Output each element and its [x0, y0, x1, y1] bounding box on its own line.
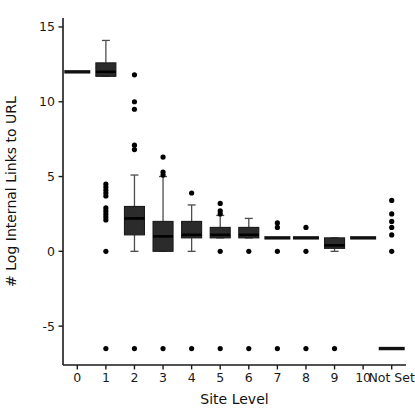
outlier-point: [132, 143, 137, 148]
x-tick-label: 4: [188, 370, 196, 385]
x-tick-label: 0: [73, 370, 81, 385]
y-tick-label: 15: [39, 19, 55, 34]
outlier-point: [189, 190, 194, 195]
outlier-point: [389, 232, 394, 237]
outlier-point: [189, 346, 194, 351]
outlier-point: [160, 346, 165, 351]
outlier-point: [275, 249, 280, 254]
box-body: [210, 227, 230, 237]
y-tick-label: 5: [47, 169, 55, 184]
boxplot-figure: 151050-5012345678910Not Set Site Level# …: [0, 0, 415, 417]
x-tick-label: 7: [273, 370, 281, 385]
outlier-point: [303, 249, 308, 254]
x-tick-label: 8: [302, 370, 310, 385]
outlier-point: [160, 172, 165, 177]
box-body: [96, 63, 116, 76]
outlier-point: [218, 211, 223, 216]
outlier-point: [103, 193, 108, 198]
outlier-point: [275, 346, 280, 351]
box-group-4: [182, 190, 202, 351]
box-group-1: [96, 40, 116, 351]
outlier-point: [275, 225, 280, 230]
y-axis-title: # Log Internal Links to URL: [3, 96, 19, 287]
box-series-layer: [64, 40, 404, 351]
x-tick-label: 2: [130, 370, 138, 385]
outlier-point: [218, 201, 223, 206]
box-body: [239, 227, 259, 237]
plot-canvas: 151050-5012345678910Not Set Site Level# …: [0, 0, 415, 417]
box-group-3: [153, 154, 173, 351]
outlier-point: [218, 346, 223, 351]
box-group-8: [293, 225, 319, 351]
outlier-point: [132, 107, 137, 112]
box-group-not-set: [379, 198, 405, 349]
outlier-point: [103, 249, 108, 254]
outlier-point: [389, 198, 394, 203]
outlier-point: [246, 249, 251, 254]
x-axis-title: Site Level: [200, 391, 268, 407]
outlier-point: [132, 72, 137, 77]
x-tick-label: 5: [216, 370, 224, 385]
outlier-point: [389, 225, 394, 230]
box-group-5: [210, 201, 230, 351]
box-body: [325, 238, 345, 248]
outlier-point: [218, 249, 223, 254]
y-tick-label: 0: [47, 244, 55, 259]
outlier-point: [160, 154, 165, 159]
outlier-point: [246, 346, 251, 351]
outlier-point: [132, 147, 137, 152]
outlier-point: [103, 217, 108, 222]
outlier-point: [132, 99, 137, 104]
outlier-point: [303, 225, 308, 230]
outlier-point: [103, 346, 108, 351]
outlier-point: [389, 211, 394, 216]
outlier-point: [132, 346, 137, 351]
x-tick-label: Not Set: [369, 370, 415, 385]
y-tick-label: 10: [39, 94, 55, 109]
box-group-6: [239, 218, 259, 351]
x-tick-label: 1: [102, 370, 110, 385]
x-tick-label: 3: [159, 370, 167, 385]
box-group-2: [124, 72, 144, 351]
outlier-point: [303, 346, 308, 351]
box-group-7: [264, 220, 290, 351]
outlier-point: [332, 346, 337, 351]
box-body: [124, 206, 144, 234]
outlier-point: [389, 249, 394, 254]
y-tick-label: -5: [43, 319, 55, 334]
outlier-point: [389, 219, 394, 224]
outlier-point: [275, 220, 280, 225]
box-group-9: [325, 238, 345, 351]
x-tick-label: 6: [245, 370, 253, 385]
x-tick-label: 9: [331, 370, 339, 385]
